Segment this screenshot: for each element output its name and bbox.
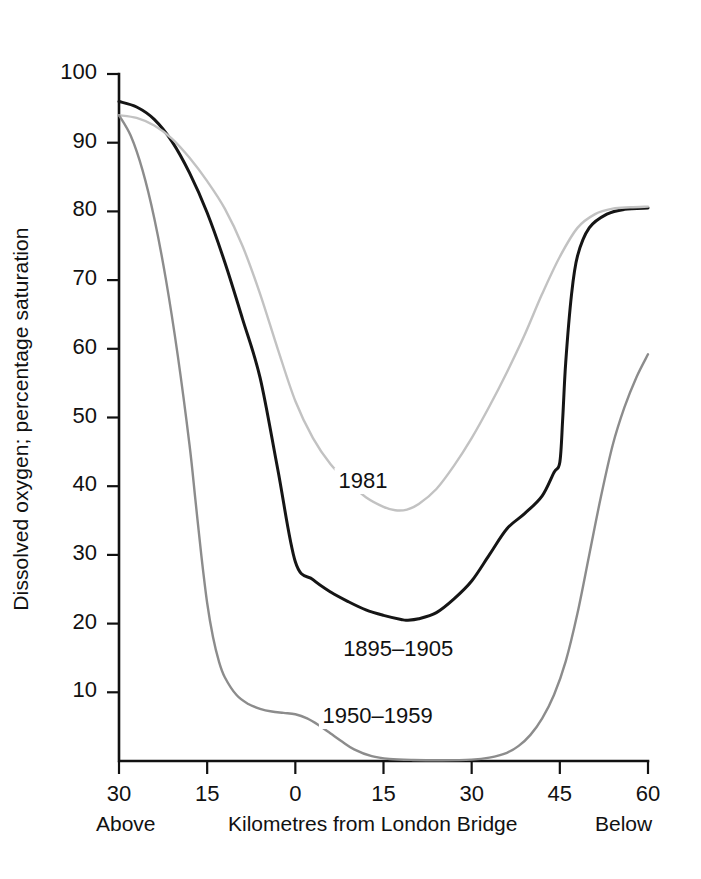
y-tick-label: 100 bbox=[41, 59, 97, 85]
y-axis-title-text: Dissolved oxygen; percentage saturation bbox=[9, 227, 33, 610]
series-line bbox=[119, 101, 648, 620]
chart-plot-area bbox=[0, 0, 701, 879]
y-tick-label: 50 bbox=[41, 403, 97, 429]
y-tick-label: 10 bbox=[41, 677, 97, 703]
x-tick-label: 30 bbox=[89, 781, 149, 807]
y-tick-label: 80 bbox=[41, 196, 97, 222]
series-annotation-label: 1950–1959 bbox=[319, 703, 437, 729]
x-tick-label: 60 bbox=[618, 781, 678, 807]
x-axis-title: Kilometres from London Bridge bbox=[228, 812, 517, 836]
chart-axes bbox=[107, 74, 648, 774]
series-line bbox=[119, 115, 648, 760]
x-tick-label: 15 bbox=[354, 781, 414, 807]
y-tick-label: 70 bbox=[41, 265, 97, 291]
y-tick-label: 20 bbox=[41, 609, 97, 635]
y-tick-label: 30 bbox=[41, 540, 97, 566]
series-annotation-label: 1895–1905 bbox=[339, 636, 457, 662]
y-tick-label: 90 bbox=[41, 128, 97, 154]
y-axis-title: Dissolved oxygen; percentage saturation bbox=[6, 74, 36, 764]
x-axis-left-caption: Above bbox=[96, 812, 156, 836]
y-axis-ticks bbox=[107, 74, 119, 692]
x-tick-label: 0 bbox=[265, 781, 325, 807]
y-tick-label: 40 bbox=[41, 471, 97, 497]
x-tick-label: 15 bbox=[177, 781, 237, 807]
x-tick-label: 45 bbox=[530, 781, 590, 807]
x-axis-ticks bbox=[119, 761, 648, 774]
y-tick-label: 60 bbox=[41, 334, 97, 360]
x-axis-right-caption: Below bbox=[595, 812, 652, 836]
series-annotation-label: 1981 bbox=[334, 468, 391, 494]
chart-figure: Dissolved oxygen; percentage saturation … bbox=[0, 0, 701, 879]
x-tick-label: 30 bbox=[442, 781, 502, 807]
